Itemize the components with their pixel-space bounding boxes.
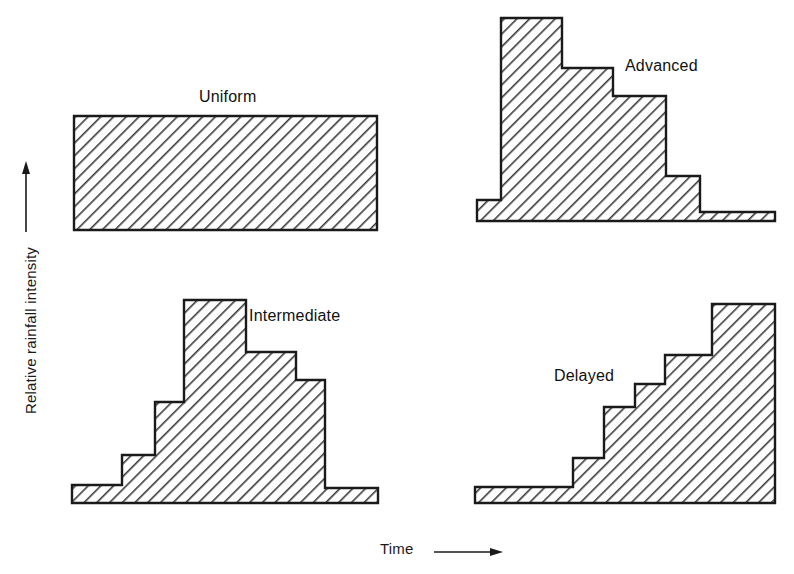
panel-delayed [475,304,775,503]
panel-intermediate [72,300,378,503]
panel-advanced [477,18,775,221]
panel-label-delayed: Delayed [554,367,614,385]
intermediate-step-shape [72,300,378,503]
panel-label-uniform: Uniform [199,88,256,106]
panel-uniform [74,116,377,230]
panel-label-intermediate: Intermediate [249,307,340,325]
hyetograph-plot-area [0,0,794,574]
x-axis-arrow-icon [434,548,503,556]
panel-label-advanced: Advanced [625,57,698,75]
advanced-step-shape [477,18,775,221]
uniform-step-shape [74,116,377,230]
x-axis-label: Time [380,540,414,557]
y-axis-label: Relative rainfall intensity [22,181,39,481]
delayed-step-shape [475,304,775,503]
rainfall-pattern-figure: Relative rainfall intensity Time Uniform… [0,0,794,574]
